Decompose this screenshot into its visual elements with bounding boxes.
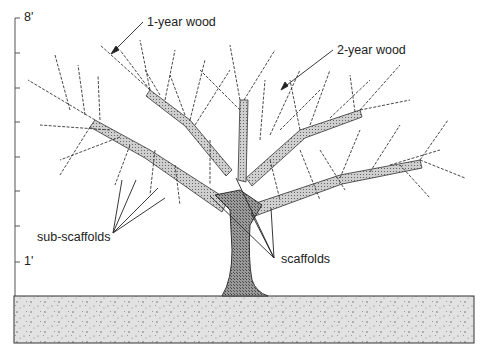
- scale-top-label: 8': [24, 10, 33, 24]
- label-scaffolds: scaffolds: [281, 252, 330, 266]
- ground: [14, 296, 474, 343]
- height-scale: [15, 18, 20, 296]
- label-sub-scaffolds: sub-scaffolds: [37, 230, 110, 244]
- scale-bottom-label: 1': [24, 254, 33, 268]
- label-2-year-wood: 2-year wood: [337, 43, 406, 57]
- tree-diagram: [0, 0, 484, 358]
- label-1-year-wood: 1-year wood: [147, 15, 216, 29]
- scaffold-branches: [90, 90, 422, 216]
